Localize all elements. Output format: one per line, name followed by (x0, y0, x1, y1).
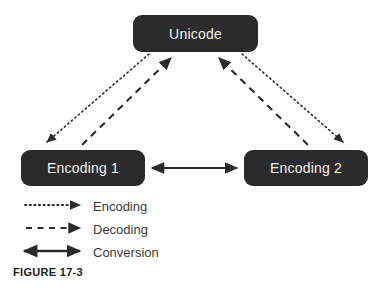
node-encoding-1: Encoding 1 (21, 150, 145, 186)
edge-decoding-encoding1-to-unicode (82, 58, 171, 145)
node-encoding-2: Encoding 2 (244, 150, 368, 186)
figure-caption: FIGURE 17-3 (13, 267, 83, 278)
node-encoding-2-label: Encoding 2 (270, 161, 342, 175)
node-unicode: Unicode (133, 15, 258, 52)
legend-label-decoding: Decoding (93, 223, 148, 236)
figure-17-3: Unicode Encoding 1 Encoding 2 Encoding D… (0, 0, 387, 292)
legend-label-encoding: Encoding (93, 200, 147, 213)
edge-encoding-unicode-to-encoding2 (242, 54, 343, 142)
node-unicode-label: Unicode (169, 27, 222, 41)
legend-label-conversion: Conversion (93, 246, 159, 259)
node-encoding-1-label: Encoding 1 (47, 161, 119, 175)
edge-encoding-unicode-to-encoding1 (47, 54, 149, 142)
edge-decoding-encoding2-to-unicode (219, 58, 308, 145)
